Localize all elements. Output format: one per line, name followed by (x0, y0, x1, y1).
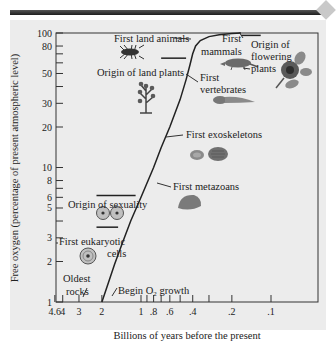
y-tick-label: 6 (47, 192, 52, 203)
y-tick-label: 3 (47, 232, 52, 243)
annotation-first-metazoans: First metazoans (173, 181, 239, 192)
y-tick-label: 100 (37, 28, 52, 39)
annotation-flowering-1: Origin of (251, 39, 290, 50)
annotation-rocks: rocks (66, 286, 89, 297)
x-tick-label: .4 (189, 306, 197, 317)
leader-line (166, 135, 183, 137)
annotation-flowering-3: plants (251, 63, 276, 74)
land-plant-icon (138, 82, 156, 113)
y-tick-label: 8 (47, 175, 52, 186)
annotation-cells: cells (107, 248, 126, 259)
annotation-vertebrates: vertebrates (200, 84, 246, 95)
land-animal-icon (120, 45, 144, 59)
x-axis-title: Billions of years before the present (113, 330, 260, 341)
y-tick-label: 10 (42, 162, 52, 173)
annotation-oldest: Oldest (63, 273, 90, 284)
annotation-first-eukaryotic: First eukaryotic (59, 236, 126, 247)
leader-line (157, 183, 171, 187)
x-tick-label: 1 (139, 306, 144, 317)
y-tick-label: 80 (42, 41, 52, 52)
y-tick-label: 20 (42, 122, 52, 133)
x-tick-label: 3 (76, 306, 81, 317)
x-tick-label: .2 (228, 306, 236, 317)
leader-line (243, 68, 250, 69)
x-tick-label: 4 (60, 306, 65, 317)
annotation-first-land-animals: First land animals (114, 33, 189, 44)
y-tick-label: 50 (42, 68, 52, 79)
oxygen-chart: 10080503020108653214.64321.8.6.4.2.1 (0, 0, 336, 356)
annotation-origin-land-plants: Origin of land plants (97, 67, 184, 78)
x-tick-label: .1 (267, 306, 275, 317)
leader-line (112, 288, 117, 296)
x-tick-label: .6 (166, 306, 174, 317)
annotation-flowering-2: flowering (251, 51, 293, 62)
eukaryotic-cell-icon (80, 248, 96, 264)
y-axis-title: Free oxygen (percentage of present atmos… (9, 53, 21, 282)
annotation-first: First (200, 72, 219, 83)
y-tick-label: 2 (47, 256, 52, 267)
x-tick-label: .8 (150, 306, 158, 317)
annotation-first-mammals-2: mammals (201, 46, 242, 57)
annotation-first-mammals-1: First (222, 33, 241, 44)
x-tick-label: 2 (99, 306, 104, 317)
metazoan-icon (178, 195, 201, 210)
annotation-first-exoskeletons: First exoskeletons (186, 129, 262, 140)
y-tick-label: 5 (47, 202, 52, 213)
annotation-origin-sexuality: Origin of sexuality (68, 199, 148, 210)
y-tick-label: 30 (42, 98, 52, 109)
vertebrate-icon (213, 96, 255, 104)
exoskeleton-icon (190, 147, 228, 161)
leader-line (186, 74, 198, 82)
annotation-begin-o2: Begin O2 growth (118, 285, 190, 298)
x-tick-label: 4.6 (49, 306, 62, 317)
